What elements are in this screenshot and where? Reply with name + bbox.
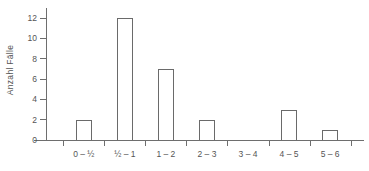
y-tick-label: 12 — [15, 14, 37, 23]
bar — [281, 110, 297, 140]
x-tick-mark — [186, 140, 187, 146]
x-tick-label: 3 – 4 — [239, 150, 258, 159]
y-tick-mark — [40, 38, 46, 39]
x-tick-label: 5 – 6 — [321, 150, 340, 159]
bar — [158, 69, 174, 140]
y-tick-label: 4 — [15, 95, 37, 104]
x-axis-line — [34, 140, 364, 141]
x-tick-mark — [351, 140, 352, 146]
y-tick-mark — [40, 18, 46, 19]
y-tick-label: 8 — [15, 55, 37, 64]
x-tick-mark — [227, 140, 228, 146]
y-tick-label: 2 — [15, 116, 37, 125]
bar — [199, 120, 215, 140]
x-tick-mark — [104, 140, 105, 146]
x-tick-label: 1 – 2 — [156, 150, 175, 159]
x-tick-mark — [145, 140, 146, 146]
y-tick-mark — [40, 119, 46, 120]
bar — [76, 120, 92, 140]
histogram-chart: Anzahl Fälle 024681012 0 – ½½ – 11 – 22 … — [0, 0, 369, 171]
bar — [322, 130, 338, 140]
y-axis-line — [46, 8, 47, 140]
x-tick-mark — [310, 140, 311, 146]
x-tick-label: 2 – 3 — [198, 150, 217, 159]
x-tick-mark — [269, 140, 270, 146]
y-tick-mark — [40, 99, 46, 100]
y-tick-mark — [40, 140, 46, 141]
x-tick-mark — [63, 140, 64, 146]
x-tick-label: 4 – 5 — [280, 150, 299, 159]
y-tick-label: 0 — [15, 136, 37, 145]
y-tick-mark — [40, 58, 46, 59]
y-tick-label: 6 — [15, 75, 37, 84]
y-axis-title-label: Anzahl Fälle — [5, 45, 15, 95]
x-tick-label: 0 – ½ — [73, 150, 94, 159]
x-tick-label: ½ – 1 — [114, 150, 135, 159]
y-tick-label: 10 — [15, 34, 37, 43]
bar — [117, 18, 133, 140]
y-tick-mark — [40, 79, 46, 80]
